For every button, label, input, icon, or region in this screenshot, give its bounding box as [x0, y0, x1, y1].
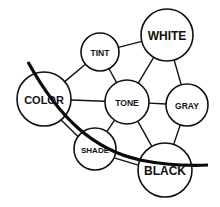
edge-tint-tone	[109, 69, 117, 83]
node-gray-label: GRAY	[175, 101, 199, 111]
node-color-label: COLOR	[24, 94, 64, 106]
node-gray: GRAY	[166, 84, 208, 126]
edge-tone-shade	[107, 120, 115, 131]
node-color: COLOR	[17, 72, 71, 126]
edge-tone-gray	[149, 103, 166, 104]
edge-tint-color	[65, 64, 86, 81]
color-tone-diagram: TINTWHITECOLORTONEGRAYSHADEBLACK	[0, 0, 220, 207]
edge-color-shade	[61, 120, 78, 136]
edge-white-gray	[174, 60, 181, 85]
nodes: TINTWHITECOLORTONEGRAYSHADEBLACK	[17, 9, 208, 197]
edge-gray-black	[174, 125, 181, 145]
node-tint-label: TINT	[91, 48, 111, 58]
node-black: BLACK	[138, 143, 192, 197]
node-tone: TONE	[105, 80, 149, 124]
edge-color-tone	[71, 100, 105, 101]
node-tint: TINT	[81, 33, 119, 71]
node-white: WHITE	[141, 9, 193, 61]
node-white-label: WHITE	[148, 29, 187, 43]
node-tone-label: TONE	[115, 98, 139, 108]
edge-tone-black	[138, 121, 152, 146]
edge-white-tone	[138, 57, 153, 83]
edge-tint-white	[118, 41, 141, 47]
